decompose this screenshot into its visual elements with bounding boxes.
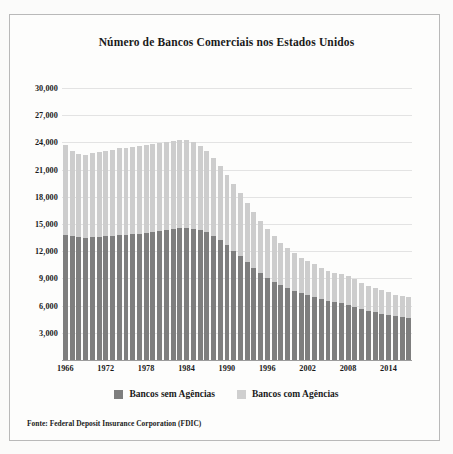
bar-segment-without-branches <box>76 237 81 360</box>
bar-column <box>116 88 123 360</box>
bar-segment-without-branches <box>346 305 351 360</box>
bar-column <box>190 88 197 360</box>
bar-segment-without-branches <box>366 311 371 360</box>
bar-segment-with-branches <box>204 151 209 233</box>
bar-column <box>338 88 345 360</box>
bar-segment-without-branches <box>150 232 155 360</box>
y-axis-tick-label: 24,000 <box>2 138 58 147</box>
bar-column <box>62 88 69 360</box>
bar-segment-with-branches <box>184 140 189 228</box>
bar-segment-with-branches <box>191 142 196 228</box>
bar-column <box>156 88 163 360</box>
bar-segment-with-branches <box>70 151 75 237</box>
bar-segment-with-branches <box>157 143 162 231</box>
x-axis-tick-label: 1978 <box>138 364 155 373</box>
bar-segment-without-branches <box>319 299 324 360</box>
y-axis-tick-label: 6,000 <box>2 301 58 310</box>
bar-segment-without-branches <box>312 297 317 360</box>
bar-segment-without-branches <box>373 312 378 360</box>
bar-column <box>102 88 109 360</box>
bar-column <box>318 88 325 360</box>
bar-column <box>379 88 386 360</box>
legend-label-banks-with-branches: Bancos com Agências <box>252 389 339 399</box>
bar-column <box>284 88 291 360</box>
bar-segment-with-branches <box>379 290 384 314</box>
bar-segment-without-branches <box>211 236 216 360</box>
bar-segment-without-branches <box>184 228 189 360</box>
bar-segment-with-branches <box>332 273 337 302</box>
bar-column <box>129 88 136 360</box>
bar-segment-without-branches <box>352 307 357 360</box>
x-axis-tick-label: 2002 <box>299 364 316 373</box>
bar-segment-without-branches <box>379 314 384 360</box>
bar-column <box>358 88 365 360</box>
bar-segment-with-branches <box>211 158 216 236</box>
bar-segment-without-branches <box>359 309 364 360</box>
bar-segment-without-branches <box>258 273 263 360</box>
bar-segment-with-branches <box>137 146 142 234</box>
bar-segment-with-branches <box>177 140 182 228</box>
bar-column <box>75 88 82 360</box>
bar-segment-without-branches <box>130 234 135 360</box>
bar-column <box>385 88 392 360</box>
chart-title: Número de Bancos Comerciais nos Estados … <box>0 36 453 48</box>
bar-column <box>304 88 311 360</box>
scanned-page-background: Número de Bancos Comerciais nos Estados … <box>0 0 453 454</box>
y-axis-tick-label: 9,000 <box>2 274 58 283</box>
x-axis-tick-label: 1996 <box>259 364 276 373</box>
y-axis-tick-label: 21,000 <box>2 165 58 174</box>
x-axis-line <box>62 360 412 361</box>
bar-column <box>217 88 224 360</box>
bar-segment-with-branches <box>218 166 223 240</box>
legend-swatch-light-icon <box>237 390 246 399</box>
y-axis-tick-labels: 30,00027,00024,00021,00018,00015,00012,0… <box>0 88 58 360</box>
bar-segment-with-branches <box>292 253 297 291</box>
bar-segment-with-branches <box>97 152 102 237</box>
bar-segment-without-branches <box>332 302 337 360</box>
bar-segment-without-branches <box>171 229 176 360</box>
bar-segment-with-branches <box>103 151 108 237</box>
bar-column <box>244 88 251 360</box>
bar-segment-with-branches <box>319 268 324 299</box>
bar-segment-without-branches <box>393 316 398 360</box>
bar-segment-without-branches <box>292 291 297 360</box>
x-axis-tick-label: 1990 <box>219 364 236 373</box>
bar-segment-without-branches <box>97 237 102 360</box>
bar-segment-with-branches <box>63 145 68 235</box>
bar-segment-with-branches <box>171 141 176 229</box>
bar-segment-without-branches <box>251 268 256 360</box>
bar-segment-with-branches <box>326 271 331 301</box>
bar-segment-without-branches <box>110 236 115 360</box>
bar-segment-without-branches <box>272 282 277 360</box>
bar-column <box>392 88 399 360</box>
bar-segment-without-branches <box>238 256 243 360</box>
y-axis-tick-label: 12,000 <box>2 247 58 256</box>
bar-column <box>257 88 264 360</box>
bar-column <box>352 88 359 360</box>
bar-column <box>203 88 210 360</box>
y-axis-tick-label: 18,000 <box>2 192 58 201</box>
bar-segment-without-branches <box>117 235 122 360</box>
legend-label-banks-without-branches: Bancos sem Agências <box>129 389 215 399</box>
bar-segment-without-branches <box>164 230 169 360</box>
bar-segment-without-branches <box>218 240 223 360</box>
x-axis-tick-label: 1966 <box>57 364 74 373</box>
bar-segment-without-branches <box>198 230 203 360</box>
bar-column <box>365 88 372 360</box>
bar-segment-without-branches <box>137 234 142 360</box>
chart-legend: Bancos sem Agências Bancos com Agências <box>0 389 453 399</box>
x-axis-tick-label: 1972 <box>97 364 114 373</box>
y-axis-tick-label: 27,000 <box>2 111 58 120</box>
bar-column <box>82 88 89 360</box>
bar-segment-with-branches <box>110 150 115 236</box>
bar-column <box>345 88 352 360</box>
legend-item-banks-without-branches: Bancos sem Agências <box>114 389 215 399</box>
bar-segment-without-branches <box>63 235 68 360</box>
bar-segment-with-branches <box>198 146 203 230</box>
bar-segment-with-branches <box>305 261 310 295</box>
bar-column <box>136 88 143 360</box>
bar-segment-without-branches <box>326 301 331 360</box>
bar-column <box>271 88 278 360</box>
bar-segment-with-branches <box>393 295 398 317</box>
bar-segment-with-branches <box>144 145 149 233</box>
